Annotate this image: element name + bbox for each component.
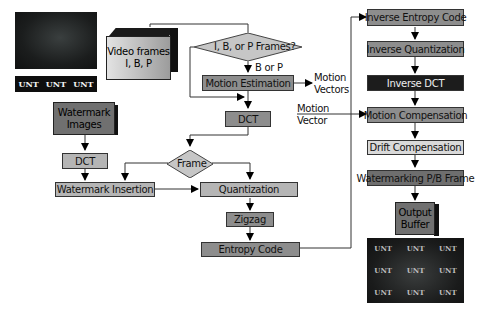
watermark-text: UNT	[439, 244, 457, 253]
motion-vector-label: Motion Vector	[297, 103, 329, 127]
watermark-text: UNT	[374, 266, 392, 275]
watermarking-pb-frame-label: Watermarking P/B Frame	[357, 173, 475, 184]
quantization-box: Quantization	[200, 182, 298, 197]
watermark-text: UNT	[46, 79, 66, 89]
output-buffer-line1: Output	[399, 207, 432, 219]
b-or-p-label: B or P	[255, 62, 283, 74]
output-watermarked-image: UNT UNT UNT UNT UNT UNT UNT UNT UNT	[367, 238, 464, 303]
watermark-dct-label: DCT	[75, 156, 95, 167]
video-frames-types: I, B, P	[107, 58, 169, 70]
motion-compensation-label: Motion Compensation	[364, 110, 468, 121]
watermark-insertion-box: Watermark Insertion	[55, 182, 155, 197]
inverse-dct-box: Inverse DCT	[367, 75, 464, 91]
watermark-text: UNT	[407, 288, 425, 297]
motion-vectors-line2: Vectors	[314, 84, 349, 96]
frame-type-decision-label: I, B, or P Frames?	[214, 41, 295, 53]
zigzag-label: Zigzag	[234, 214, 266, 225]
output-buffer-line2: Buffer	[399, 219, 432, 231]
motion-vectors-line1: Motion	[314, 72, 349, 84]
motion-estimation-box: Motion Estimation	[202, 75, 294, 91]
zigzag-box: Zigzag	[226, 212, 274, 227]
watermark-images-line1: Watermark	[58, 107, 110, 119]
input-video-frame-image	[15, 12, 97, 69]
motion-vector-line2: Vector	[297, 115, 329, 127]
inverse-quantization-label: Inverse Quantization	[367, 44, 465, 55]
motion-vector-line1: Motion	[297, 103, 329, 115]
watermark-text: UNT	[439, 266, 457, 275]
flowchart-canvas: UNT UNT UNT Video frames I, B, P I, B, o…	[0, 0, 487, 310]
watermark-text: UNT	[374, 244, 392, 253]
entropy-code-label: Entropy Code	[218, 244, 282, 255]
entropy-code-box: Entropy Code	[201, 242, 300, 257]
inverse-entropy-code-box: Inverse Entropy Code	[367, 9, 464, 26]
motion-estimation-label: Motion Estimation	[205, 78, 290, 89]
input-watermark-strip: UNT UNT UNT	[15, 76, 97, 92]
video-frames-block: Video frames I, B, P	[106, 28, 181, 80]
quantization-label: Quantization	[219, 184, 279, 195]
watermark-dct-box: DCT	[62, 153, 108, 169]
watermark-images-block: Watermark Images	[53, 102, 119, 136]
watermark-text: UNT	[73, 79, 93, 89]
inverse-quantization-box: Inverse Quantization	[367, 41, 464, 57]
watermark-images-line2: Images	[58, 119, 110, 131]
watermark-insertion-label: Watermark Insertion	[57, 184, 154, 195]
motion-compensation-box: Motion Compensation	[367, 107, 464, 123]
watermarking-pb-frame-box: Watermarking P/B Frame	[367, 170, 464, 186]
dct-box: DCT	[225, 111, 271, 127]
watermark-text: UNT	[407, 266, 425, 275]
frame-decision-label: Frame	[177, 158, 207, 170]
inverse-dct-label: Inverse DCT	[387, 78, 445, 89]
video-frames-label: Video frames	[107, 46, 169, 58]
output-buffer-block: Output Buffer	[395, 202, 439, 236]
watermark-text: UNT	[19, 79, 39, 89]
watermark-text: UNT	[439, 288, 457, 297]
dct-label: DCT	[238, 114, 258, 125]
inverse-entropy-code-label: Inverse Entropy Code	[365, 12, 467, 23]
watermark-text: UNT	[374, 288, 392, 297]
drift-compensation-box: Drift Compensation	[367, 140, 464, 155]
motion-vectors-label: Motion Vectors	[314, 72, 349, 96]
watermark-text: UNT	[407, 244, 425, 253]
drift-compensation-label: Drift Compensation	[370, 142, 462, 153]
